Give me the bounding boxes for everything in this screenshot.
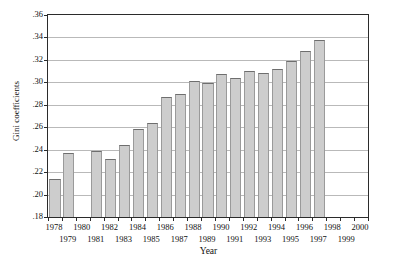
x-tick-mark: [229, 217, 230, 221]
x-tick-mark: [104, 217, 105, 221]
x-tick-mark: [118, 217, 119, 221]
bar: [105, 159, 116, 217]
bar: [63, 153, 74, 217]
x-tick-mark: [243, 217, 244, 221]
bar: [147, 123, 158, 217]
y-tick-label: .18: [21, 211, 43, 222]
bar: [202, 83, 213, 217]
x-tick-mark: [326, 217, 327, 221]
x-tick-mark: [159, 217, 160, 221]
gini-coefficient-bar-chart: Gini coefficients .18.20.22.24.26.28.30.…: [0, 0, 417, 264]
bar: [230, 78, 241, 217]
x-tick-mark: [187, 217, 188, 221]
x-tick-mark: [201, 217, 202, 221]
x-tick-mark: [354, 217, 355, 221]
y-tick-label: .24: [21, 144, 43, 155]
x-tick-mark: [285, 217, 286, 221]
y-tick-label: .28: [21, 99, 43, 110]
bar: [119, 145, 130, 217]
plot-area: .18.20.22.24.26.28.30.32.34.36: [47, 14, 369, 218]
y-tick-label: .22: [21, 166, 43, 177]
bar: [49, 179, 60, 217]
y-tick-label: .30: [21, 76, 43, 87]
y-tick-label: .20: [21, 189, 43, 200]
y-tick-label: .34: [21, 31, 43, 42]
bar: [272, 69, 283, 217]
x-tick-mark: [368, 217, 369, 221]
x-tick-label: 2000: [340, 222, 380, 232]
x-tick-mark: [257, 217, 258, 221]
y-axis-title: Gini coefficients: [11, 51, 21, 171]
x-tick-mark: [131, 217, 132, 221]
bar: [244, 71, 255, 217]
y-tick-label: .26: [21, 121, 43, 132]
x-tick-mark: [271, 217, 272, 221]
bar: [314, 40, 325, 217]
x-tick-mark: [145, 217, 146, 221]
bar-series: [48, 15, 368, 217]
x-tick-mark: [48, 217, 49, 221]
x-tick-mark: [90, 217, 91, 221]
x-tick-mark: [173, 217, 174, 221]
bar: [161, 97, 172, 217]
x-tick-mark: [76, 217, 77, 221]
x-tick-mark: [312, 217, 313, 221]
bar: [300, 51, 311, 217]
bar: [286, 61, 297, 217]
y-tick-label: .36: [21, 9, 43, 20]
bar: [216, 74, 227, 217]
bar: [258, 73, 269, 217]
bar: [189, 81, 200, 217]
x-tick-mark: [340, 217, 341, 221]
bar: [91, 151, 102, 217]
x-tick-mark: [215, 217, 216, 221]
y-tick-label: .32: [21, 54, 43, 65]
x-axis-title: Year: [0, 246, 417, 256]
x-tick-mark: [298, 217, 299, 221]
x-tick-mark: [62, 217, 63, 221]
x-tick-label: 1999: [326, 234, 366, 244]
bar: [133, 129, 144, 217]
bar: [175, 94, 186, 217]
